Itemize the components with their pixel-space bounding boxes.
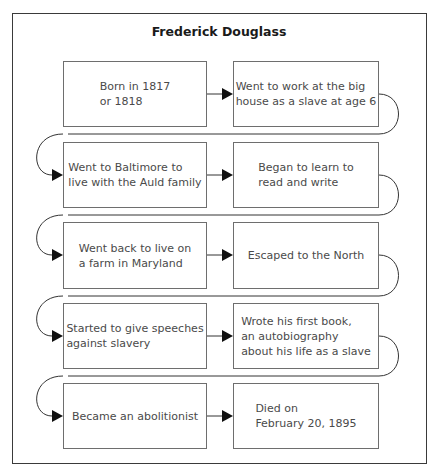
step-1-box: Born in 1817 or 1818 <box>63 61 207 127</box>
step-5-text: Went back to live on a farm in Maryland <box>79 241 192 271</box>
diagram-title: Frederick Douglass <box>0 24 438 39</box>
step-6-text: Escaped to the North <box>248 248 365 263</box>
step-10-text: Died on February 20, 1895 <box>255 401 356 431</box>
step-5-box: Went back to live on a farm in Maryland <box>63 222 207 289</box>
step-3-text: Went to Baltimore to live with the Auld … <box>68 160 201 190</box>
step-3-box: Went to Baltimore to live with the Auld … <box>63 142 207 208</box>
step-7-text: Started to give speeches against slavery <box>66 321 203 351</box>
step-6-box: Escaped to the North <box>233 222 379 289</box>
step-8-text: Wrote his first book, an autobiography a… <box>241 314 371 359</box>
step-10-box: Died on February 20, 1895 <box>233 383 379 449</box>
step-2-box: Went to work at the big house as a slave… <box>233 61 379 127</box>
step-2-text: Went to work at the big house as a slave… <box>236 79 377 109</box>
step-4-box: Began to learn to read and write <box>233 142 379 208</box>
step-9-text: Became an abolitionist <box>72 409 198 424</box>
step-8-box: Wrote his first book, an autobiography a… <box>233 303 379 369</box>
step-7-box: Started to give speeches against slavery <box>63 303 207 369</box>
step-9-box: Became an abolitionist <box>63 383 207 449</box>
step-1-text: Born in 1817 or 1818 <box>100 79 171 109</box>
step-4-text: Began to learn to read and write <box>258 160 353 190</box>
